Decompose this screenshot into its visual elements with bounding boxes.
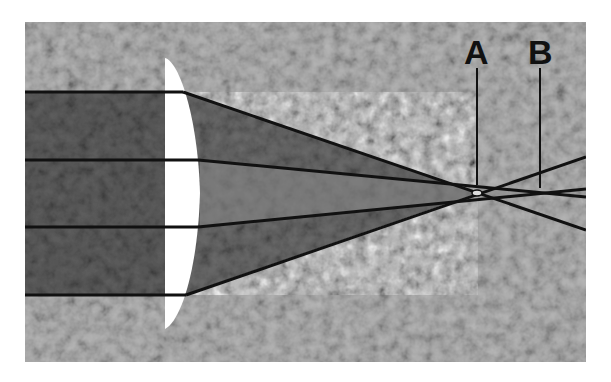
lens-diagram: A B <box>0 0 611 382</box>
incident-beam <box>25 92 167 295</box>
focus-a-point <box>472 190 482 196</box>
label-b: B <box>528 33 553 71</box>
label-a: A <box>464 33 489 71</box>
